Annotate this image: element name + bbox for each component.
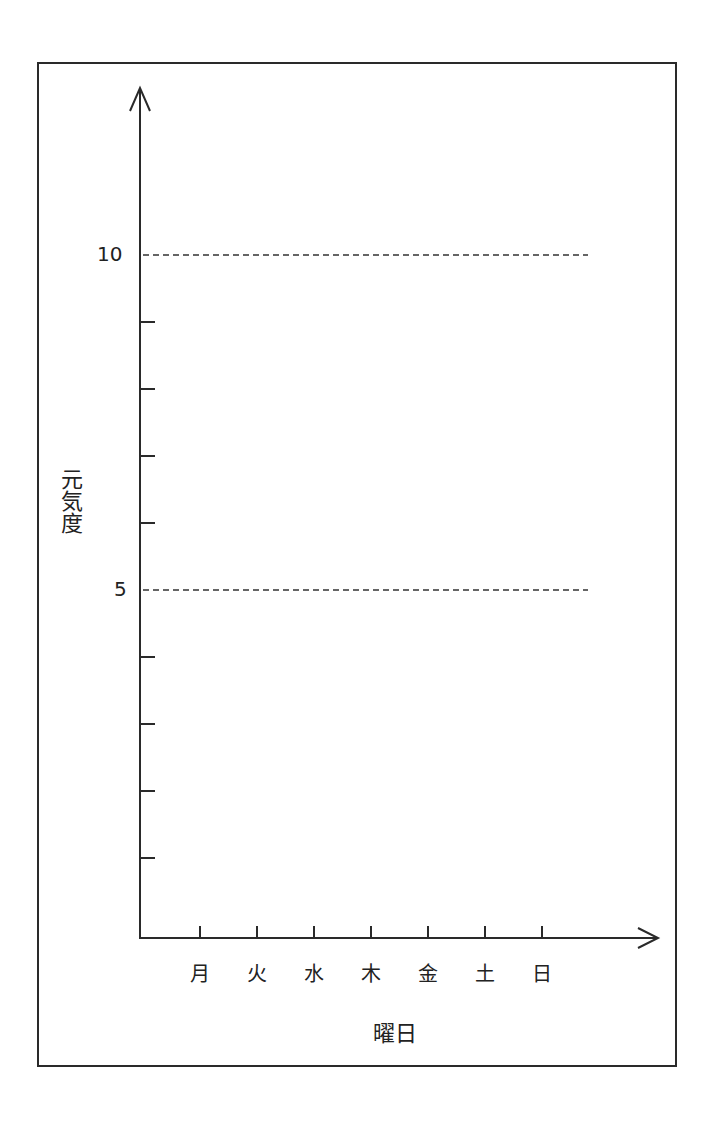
y-tick-label-5: 5 [114, 577, 127, 601]
x-tick-label-fri: 金 [418, 958, 438, 987]
x-tick-label-mon: 月 [190, 958, 210, 987]
y-axis-title: 元気度 [56, 468, 82, 534]
x-tick-label-tue: 火 [247, 958, 267, 987]
x-ticks [200, 926, 542, 938]
x-tick-label-wed: 水 [304, 958, 324, 987]
x-axis-title: 曜日 [373, 1015, 417, 1047]
y-tick-label-10: 10 [97, 242, 122, 266]
x-tick-label-sat: 土 [475, 958, 495, 987]
x-tick-label-sun: 日 [532, 958, 552, 987]
chart-plot [0, 0, 715, 1122]
x-tick-label-thu: 木 [361, 958, 381, 987]
